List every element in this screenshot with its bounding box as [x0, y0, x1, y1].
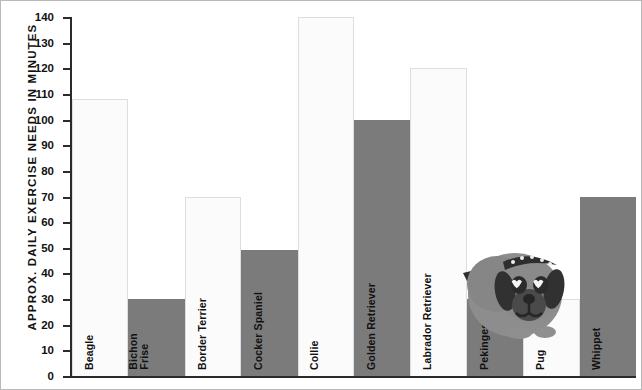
bar[interactable]: [298, 17, 354, 376]
y-axis-tick-label: 50: [24, 242, 54, 254]
bar[interactable]: [354, 120, 410, 376]
y-axis-tick: 20: [63, 325, 70, 327]
bar[interactable]: [185, 197, 241, 377]
bar-label: Pekingese: [478, 317, 490, 370]
bar-label: Whippet: [590, 328, 602, 370]
y-axis-tick-label: 100: [24, 113, 54, 125]
y-axis-tick-label: 110: [24, 88, 54, 100]
bar[interactable]: [523, 299, 579, 376]
y-axis-tick: 60: [63, 222, 70, 224]
y-axis-tick-label: 30: [24, 293, 54, 305]
y-axis-tick: 50: [63, 248, 70, 250]
x-axis-line: [70, 376, 636, 378]
y-axis-tick: 10: [63, 350, 70, 352]
y-axis-tick: 140: [63, 17, 70, 19]
bar-column[interactable]: Golden Retriever: [354, 17, 410, 376]
bar[interactable]: [72, 99, 128, 376]
bar-label: Labrador Retriever: [421, 273, 433, 370]
bar-label: Border Terrier: [196, 298, 208, 370]
bar-label: Pug: [534, 350, 546, 370]
y-axis-tick-label: 70: [24, 190, 54, 202]
y-axis-tick-label: 0: [24, 370, 54, 382]
bar-column[interactable]: Collie: [298, 17, 354, 376]
bar-column[interactable]: Pug: [523, 17, 579, 376]
bar-series: BeagleBichon FriseBorder TerrierCocker S…: [72, 17, 636, 376]
y-axis-tick-label: 40: [24, 267, 54, 279]
y-axis-tick: 40: [63, 273, 70, 275]
y-axis-tick-label: 90: [24, 139, 54, 151]
y-axis-tick: 90: [63, 145, 70, 147]
bar[interactable]: [580, 197, 636, 377]
y-axis-tick-label: 10: [24, 344, 54, 356]
y-axis-tick-label: 140: [24, 11, 54, 23]
y-axis-tick: 120: [63, 68, 70, 70]
y-axis-tick-label: 80: [24, 165, 54, 177]
bar[interactable]: [467, 299, 523, 376]
y-axis-tick-label: 130: [24, 36, 54, 48]
bar-label: Golden Retriever: [365, 283, 377, 370]
bar[interactable]: [241, 250, 297, 376]
bar-label: Bichon Frise: [128, 334, 151, 370]
chart-container: APPROX. DAILY EXERCISE NEEDS IN MINUTES …: [0, 0, 642, 390]
bar-label: Cocker Spaniel: [252, 292, 264, 370]
y-axis-tick: 130: [63, 43, 70, 45]
y-axis-tick-label: 20: [24, 318, 54, 330]
y-axis-tick: 0: [63, 376, 70, 378]
y-axis-tick: 30: [63, 299, 70, 301]
bar-column[interactable]: Labrador Retriever: [410, 17, 466, 376]
y-axis-tick: 80: [63, 171, 70, 173]
bar-label: Collie: [308, 341, 320, 371]
y-axis-tick-label: 120: [24, 62, 54, 74]
bar-column[interactable]: Beagle: [72, 17, 128, 376]
bar[interactable]: [410, 68, 466, 376]
bar-column[interactable]: Bichon Frise: [128, 17, 184, 376]
bar-column[interactable]: Cocker Spaniel: [241, 17, 297, 376]
y-axis-tick: 100: [63, 120, 70, 122]
bar-column[interactable]: Pekingese: [467, 17, 523, 376]
y-axis-tick: 70: [63, 197, 70, 199]
bar-column[interactable]: Whippet: [580, 17, 636, 376]
plot-area: 1401301201101009080706050403020100 Beagl…: [70, 17, 636, 378]
y-axis-tick-label: 60: [24, 216, 54, 228]
bar-column[interactable]: Border Terrier: [185, 17, 241, 376]
bar-label: Beagle: [83, 335, 95, 370]
y-axis-tick: 110: [63, 94, 70, 96]
